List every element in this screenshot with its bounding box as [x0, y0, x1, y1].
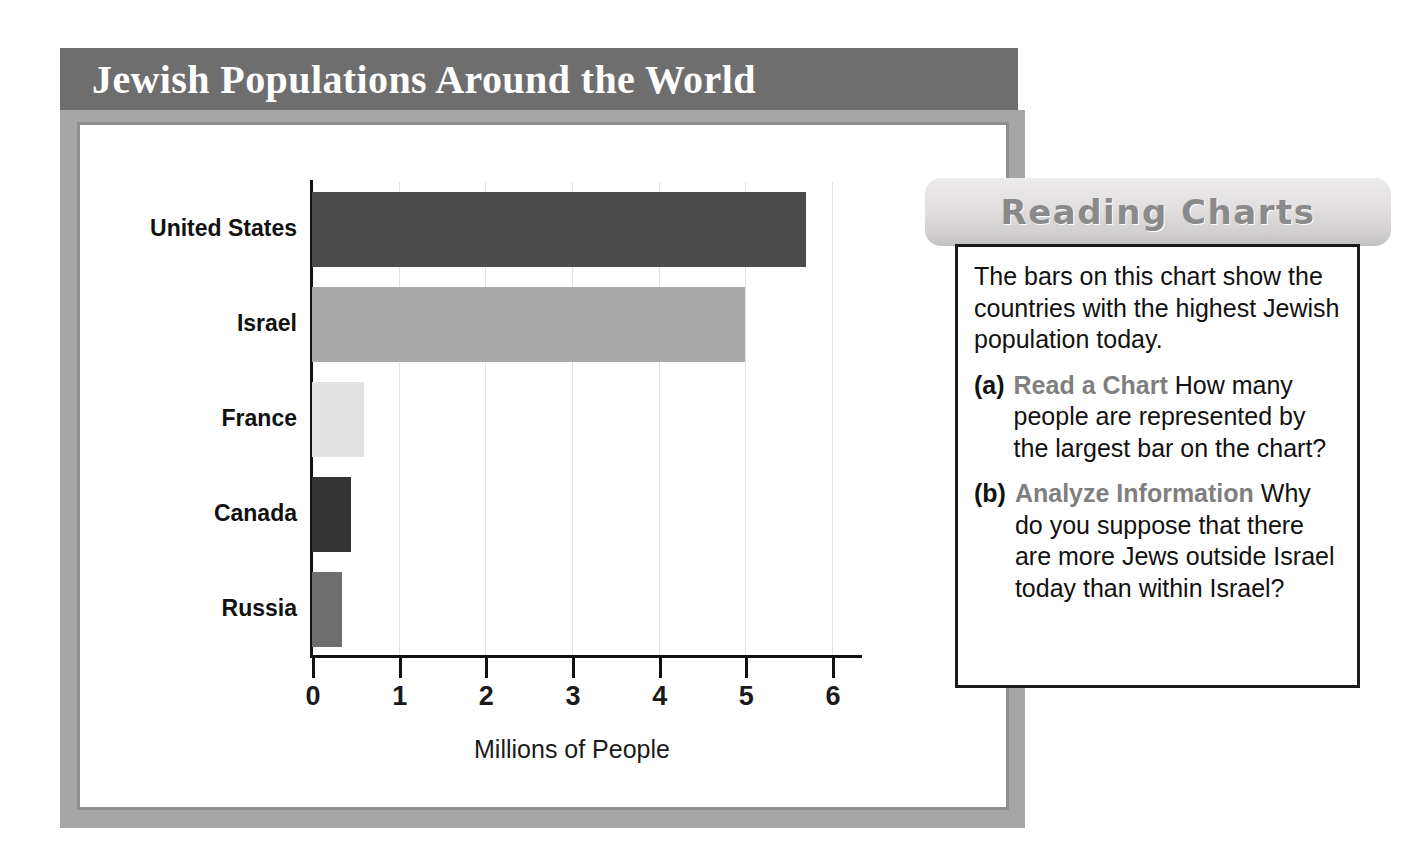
callout-body: The bars on this chart show the countrie… — [955, 244, 1360, 688]
reading-charts-callout: Reading Charts The bars on this chart sh… — [925, 178, 1391, 246]
callout-tab: Reading Charts — [925, 178, 1391, 246]
callout-text-b: Analyze Information Why do you suppose t… — [1015, 478, 1341, 604]
callout-text-a: Read a Chart How many people are represe… — [1014, 370, 1341, 465]
callout-term-a: Read a Chart — [1014, 371, 1168, 399]
chart-title-band: Jewish Populations Around the World — [60, 48, 1018, 110]
chart-inner-panel — [77, 122, 1009, 810]
callout-intro: The bars on this chart show the countrie… — [974, 261, 1341, 356]
callout-tab-title: Reading Charts — [925, 192, 1391, 232]
callout-term-b: Analyze Information — [1015, 479, 1254, 507]
callout-question-a: (a) Read a Chart How many people are rep… — [974, 370, 1341, 465]
callout-question-b: (b) Analyze Information Why do you suppo… — [974, 478, 1341, 604]
callout-marker-a: (a) — [974, 370, 1014, 465]
callout-marker-b: (b) — [974, 478, 1015, 604]
page-title: Jewish Populations Around the World — [92, 56, 756, 103]
